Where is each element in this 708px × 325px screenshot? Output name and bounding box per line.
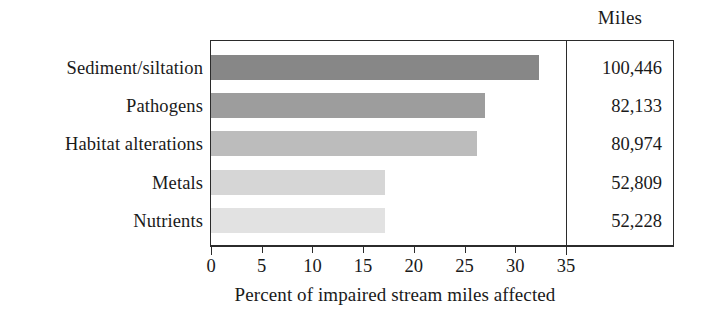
x-axis-title: Percent of impaired stream miles affecte…	[200, 283, 590, 307]
x-tick-label-15: 15	[343, 255, 383, 277]
x-tick-5	[262, 246, 263, 253]
miles-value-pathogens: 82,133	[611, 96, 662, 116]
x-tick-25	[465, 246, 466, 253]
bar-chart-figure: Miles Sediment/siltation Pathogens Habit…	[0, 0, 708, 325]
x-tick-15	[363, 246, 364, 253]
bar-nutrients	[211, 208, 385, 233]
category-label-sediment-siltation: Sediment/siltation	[0, 58, 203, 78]
x-axis-line	[210, 246, 674, 247]
category-axis-labels: Sediment/siltation Pathogens Habitat alt…	[0, 40, 203, 246]
miles-column-header: Miles	[566, 6, 674, 30]
x-tick-label-5: 5	[242, 255, 282, 277]
x-tick-label-25: 25	[445, 255, 485, 277]
x-tick-30	[515, 246, 516, 253]
category-label-pathogens: Pathogens	[0, 96, 203, 116]
miles-value-habitat-alterations: 80,974	[611, 134, 662, 154]
bar-metals	[211, 170, 385, 195]
x-tick-0	[211, 246, 212, 255]
bar-pathogens	[211, 93, 485, 118]
category-label-habitat-alterations: Habitat alterations	[0, 134, 203, 154]
x-tick-label-20: 20	[394, 255, 434, 277]
x-tick-35	[566, 246, 567, 255]
x-tick-label-0: 0	[191, 255, 231, 277]
bars-layer	[211, 40, 566, 246]
x-tick-label-35: 35	[546, 255, 586, 277]
x-tick-20	[414, 246, 415, 253]
miles-value-sediment-siltation: 100,446	[602, 58, 662, 78]
category-label-metals: Metals	[0, 173, 203, 193]
bar-habitat-alterations	[211, 131, 477, 156]
x-tick-label-10: 10	[292, 255, 332, 277]
bar-sediment-siltation	[211, 55, 539, 80]
miles-value-metals: 52,809	[611, 173, 662, 193]
miles-value-nutrients: 52,228	[611, 211, 662, 231]
x-tick-label-30: 30	[495, 255, 535, 277]
x-tick-10	[312, 246, 313, 253]
miles-column-values: 100,446 82,133 80,974 52,809 52,228	[567, 40, 674, 246]
category-label-nutrients: Nutrients	[0, 211, 203, 231]
